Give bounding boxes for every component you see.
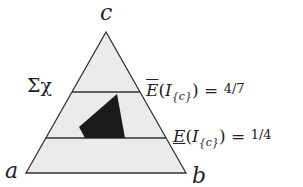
indicator-symbol: I: [192, 126, 199, 146]
lower-expectation-label: E(I{c}) = 1/4: [173, 128, 272, 148]
vertex-label-c: c: [100, 2, 112, 24]
simplex-triangle: [26, 32, 186, 173]
upper-expectation-operator: E: [146, 80, 158, 100]
vertex-label-b: b: [192, 165, 206, 187]
indicator-subscript: {c}: [199, 136, 219, 149]
equals-sign: =: [204, 80, 218, 100]
vertex-label-a: a: [5, 160, 18, 182]
equals-sign: =: [231, 126, 245, 146]
upper-expectation-value: 4/7: [224, 81, 245, 96]
lower-expectation-value: 1/4: [251, 127, 272, 142]
upper-expectation-label: E(I{c}) = 4/7: [146, 82, 245, 102]
indicator-subscript: {c}: [172, 90, 192, 103]
lower-expectation-operator: E: [173, 126, 185, 146]
indicator-symbol: I: [165, 80, 172, 100]
set-label: Σχ: [27, 76, 52, 95]
